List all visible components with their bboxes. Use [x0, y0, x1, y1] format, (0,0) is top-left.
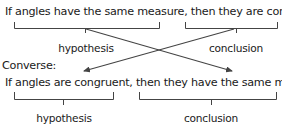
- diagram-lines: [0, 0, 282, 133]
- converse-hypothesis-bracket: [15, 92, 114, 105]
- converse-conclusion-bracket: [140, 92, 277, 105]
- statement-hypothesis-bracket: [15, 22, 160, 33]
- statement-conclusion-bracket: [186, 22, 278, 33]
